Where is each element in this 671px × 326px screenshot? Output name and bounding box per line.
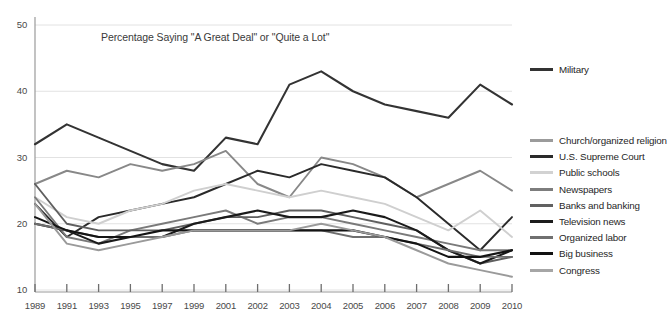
- chart-title: Percentage Saying "A Great Deal" or "Qui…: [101, 31, 329, 43]
- x-axis-tick-label: 2010: [502, 300, 522, 311]
- legend-item[interactable]: Public schools: [530, 167, 620, 178]
- legend-color-swatch: [530, 68, 553, 71]
- legend-color-swatch: [530, 171, 553, 174]
- x-axis-tick-label: 2007: [406, 300, 426, 311]
- legend-color-swatch: [530, 236, 553, 239]
- x-axis-tick-label: 1989: [25, 300, 45, 311]
- x-axis-tick-label: 2002: [247, 300, 267, 311]
- legend-color-swatch: [530, 220, 553, 223]
- x-axis-tick-label: 2006: [375, 300, 395, 311]
- legend-item-label: Congress: [559, 265, 600, 276]
- x-axis-tick-label: 2001: [216, 300, 236, 311]
- legend-item[interactable]: Newspapers: [530, 184, 612, 195]
- legend-color-swatch: [530, 269, 553, 272]
- legend-color-swatch: [530, 252, 553, 255]
- x-axis-tick-label: 1993: [88, 300, 108, 311]
- legend-item-label: Military: [559, 64, 589, 75]
- chart-legend: MilitaryChurch/organized religionU.S. Su…: [530, 0, 671, 326]
- legend-item-label: Church/organized religion: [559, 135, 667, 146]
- legend-item-label: Public schools: [559, 167, 620, 178]
- legend-item-label: Newspapers: [559, 184, 612, 195]
- legend-item[interactable]: Big business: [530, 248, 613, 259]
- legend-item[interactable]: Congress: [530, 265, 600, 276]
- legend-item[interactable]: Military: [530, 64, 589, 75]
- chart-canvas: 5040302010 19891991199319951997199920012…: [0, 0, 520, 326]
- x-axis-tick-label: 1997: [152, 300, 172, 311]
- legend-item-label: Big business: [559, 248, 613, 259]
- legend-item[interactable]: U.S. Supreme Court: [530, 151, 645, 162]
- x-axis-tick-label: 2009: [470, 300, 490, 311]
- legend-color-swatch: [530, 139, 553, 142]
- x-axis-tick-label: 2004: [311, 300, 331, 311]
- x-axis-tick-label: 1999: [184, 300, 204, 311]
- chart-page: 5040302010 19891991199319951997199920012…: [0, 0, 671, 326]
- x-axis-tick-label: 1995: [120, 300, 140, 311]
- legend-color-swatch: [530, 188, 553, 191]
- legend-item-label: Television news: [559, 216, 625, 227]
- legend-item-label: U.S. Supreme Court: [559, 151, 645, 162]
- legend-item[interactable]: Television news: [530, 216, 625, 227]
- x-axis-tick-label: 1991: [57, 300, 77, 311]
- x-axis-tick-label: 2005: [343, 300, 363, 311]
- legend-item-label: Organized labor: [559, 232, 626, 243]
- legend-item[interactable]: Banks and banking: [530, 200, 640, 211]
- x-axis-tick-label: 2008: [438, 300, 458, 311]
- legend-item[interactable]: Church/organized religion: [530, 135, 667, 146]
- x-axis: 1989199119931995199719992001200220032004…: [0, 0, 520, 326]
- legend-item-label: Banks and banking: [559, 200, 640, 211]
- legend-color-swatch: [530, 155, 553, 158]
- legend-color-swatch: [530, 204, 553, 207]
- legend-item[interactable]: Organized labor: [530, 232, 626, 243]
- x-axis-tick-label: 2003: [279, 300, 299, 311]
